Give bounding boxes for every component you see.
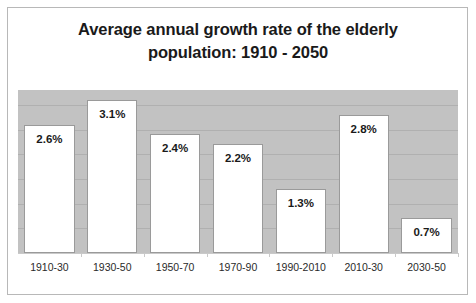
x-axis-tick [269,253,270,257]
x-axis-tick [81,253,82,257]
chart-title-line-2: population: 1910 - 2050 [20,41,456,64]
bar[interactable]: 0.7% [401,218,451,253]
bar[interactable]: 2.8% [339,115,389,253]
bar-value-label: 2.4% [151,142,199,154]
x-axis-tick [207,253,208,257]
bar-value-label: 2.8% [340,123,388,135]
x-axis-tick [332,253,333,257]
x-axis-tick-label: 1990-2010 [269,261,332,273]
bar-value-label: 2.2% [214,152,262,164]
x-axis-tick [144,253,145,257]
bars-layer: 2.6%3.1%2.4%2.2%1.3%2.8%0.7% [18,90,458,253]
bar-value-label: 2.6% [25,133,73,145]
bar-value-label: 3.1% [88,108,136,120]
x-axis-tick [458,253,459,257]
x-axis-tick-label: 1970-90 [207,261,270,273]
x-axis-tick-label: 2010-30 [332,261,395,273]
bar[interactable]: 2.6% [24,125,74,253]
x-axis-tick-label: 1950-70 [144,261,207,273]
bar[interactable]: 2.4% [150,134,200,253]
x-axis-labels: 1910-301930-501950-701970-901990-2010201… [18,261,458,283]
chart-title-line-1: Average annual growth rate of the elderl… [20,18,456,41]
x-axis-tick-label: 1930-50 [81,261,144,273]
bar-value-label: 0.7% [402,226,450,238]
x-axis-tick-label: 1910-30 [18,261,81,273]
x-axis-tick-label: 2030-50 [395,261,458,273]
bar[interactable]: 2.2% [213,144,263,253]
bar[interactable]: 1.3% [276,189,326,253]
x-axis-line [18,253,458,254]
plot-area: 2.6%3.1%2.4%2.2%1.3%2.8%0.7% [18,90,458,253]
x-axis-tick [395,253,396,257]
bar-value-label: 1.3% [277,197,325,209]
chart-title: Average annual growth rate of the elderl… [20,18,456,64]
bar[interactable]: 3.1% [87,100,137,253]
chart-container: Average annual growth rate of the elderl… [0,0,476,303]
